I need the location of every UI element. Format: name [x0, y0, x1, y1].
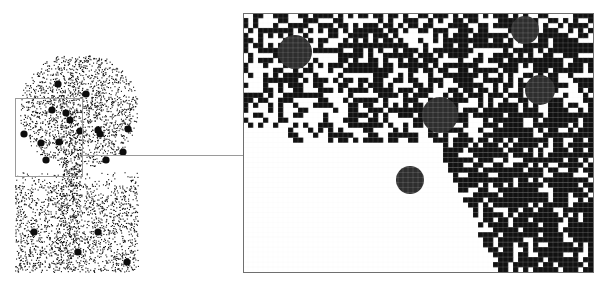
magnification-diagram: [0, 0, 606, 288]
magnified-pixel-view: [243, 13, 593, 272]
stippled-tree-image: [15, 55, 139, 273]
figure-canvas: [0, 0, 606, 288]
